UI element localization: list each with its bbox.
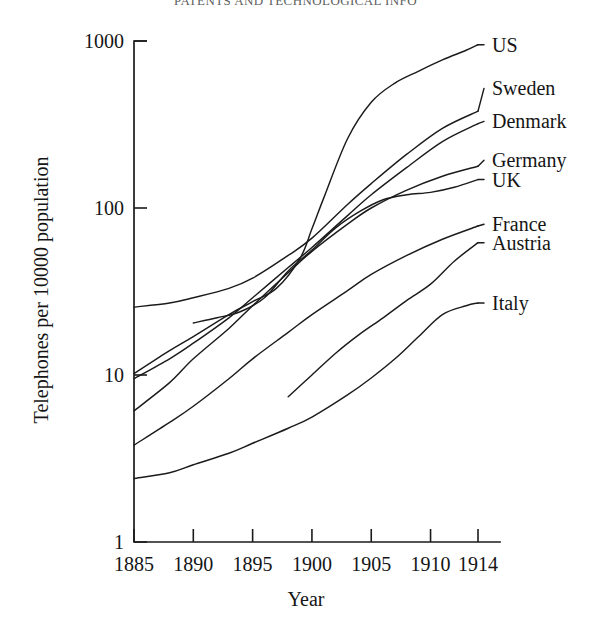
x-tick-label: 1895	[233, 553, 273, 575]
x-tick-label: 1905	[351, 553, 391, 575]
y-tick-label: 10	[104, 364, 124, 386]
leader-line-france	[478, 224, 484, 226]
series-curve-sweden	[134, 111, 478, 307]
series-curve-uk	[193, 180, 478, 323]
y-axis-ticks	[134, 41, 147, 542]
series-labels: USSwedenDenmarkGermanyUKFranceAustriaIta…	[492, 34, 566, 315]
data-series-curves	[134, 45, 478, 479]
series-curve-germany	[134, 166, 478, 411]
x-axis-tick-labels: 1885189018951900190519101914	[114, 553, 498, 575]
series-curve-france	[134, 226, 478, 445]
series-curve-us	[134, 45, 478, 374]
line-chart-svg: 1101001000 1885189018951900190519101914 …	[0, 0, 591, 631]
x-tick-label: 1900	[292, 553, 332, 575]
x-axis-ticks	[134, 529, 478, 542]
series-label-uk: UK	[492, 169, 521, 191]
figure-telephones-per-10000-population: PATENTS AND TECHNOLOGICAL INFO 110100100…	[0, 0, 591, 631]
y-tick-label: 1000	[84, 30, 124, 52]
leader-line-denmark	[478, 121, 484, 123]
x-tick-label: 1914	[458, 553, 498, 575]
x-axis-title: Year	[288, 588, 325, 610]
series-label-austria: Austria	[492, 232, 551, 254]
y-tick-label: 1	[114, 531, 124, 553]
y-tick-label: 100	[94, 197, 124, 219]
label-leader-lines	[478, 45, 484, 303]
series-curve-italy	[134, 303, 478, 479]
series-label-sweden: Sweden	[492, 77, 555, 99]
x-tick-label: 1910	[411, 553, 451, 575]
x-tick-label: 1890	[173, 553, 213, 575]
y-axis-title: Telephones per 10000 population	[30, 157, 53, 424]
y-axis-tick-labels: 1101001000	[84, 30, 124, 553]
leader-line-sweden	[478, 88, 484, 111]
x-tick-label: 1885	[114, 553, 154, 575]
leader-line-germany	[478, 160, 484, 166]
series-label-italy: Italy	[492, 292, 529, 315]
series-label-us: US	[492, 34, 518, 56]
series-label-denmark: Denmark	[492, 110, 566, 132]
series-curve-austria	[288, 243, 478, 397]
